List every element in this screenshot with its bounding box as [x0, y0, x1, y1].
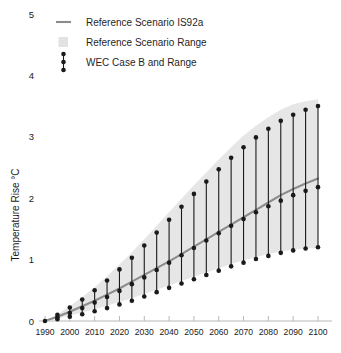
x-tick-2060: 2060 [209, 327, 228, 337]
x-tick-2100: 2100 [308, 327, 327, 337]
legend-label-2: WEC Case B and Range [86, 57, 197, 68]
chart-canvas: 012345 199020002010202020302040205020602… [0, 0, 341, 353]
legend-label-1: Reference Scenario Range [86, 37, 207, 48]
y-axis-title: Temperature Rise °C [10, 169, 21, 262]
x-tick-2080: 2080 [259, 327, 278, 337]
x-tick-2090: 2090 [284, 327, 303, 337]
legend-marker-square [59, 37, 69, 47]
y-tick-2: 2 [29, 193, 34, 204]
x-tick-2020: 2020 [110, 327, 129, 337]
legend-label-0: Reference Scenario IS92a [86, 17, 204, 28]
y-axis-title-text: Temperature Rise °C [10, 169, 21, 262]
y-axis-tick-labels: 012345 [29, 9, 34, 327]
temperature-rise-chart: 012345 199020002010202020302040205020602… [0, 0, 341, 353]
y-tick-4: 4 [29, 70, 34, 81]
legend-marker-dot [61, 68, 66, 73]
chart-axes [39, 316, 332, 321]
y-tick-5: 5 [29, 9, 34, 20]
y-tick-1: 1 [29, 254, 34, 265]
x-tick-2000: 2000 [60, 327, 79, 337]
y-tick-0: 0 [29, 316, 34, 327]
x-tick-2030: 2030 [135, 327, 154, 337]
legend-marker-dot [61, 52, 66, 57]
x-tick-2050: 2050 [184, 327, 203, 337]
legend-marker-dot [61, 60, 66, 65]
chart-legend: Reference Scenario IS92aReference Scenar… [56, 17, 207, 73]
x-tick-1990: 1990 [35, 327, 54, 337]
x-axis-tick-labels: 1990200020102020203020402050206020702080… [35, 327, 327, 337]
x-tick-2040: 2040 [160, 327, 179, 337]
x-tick-2070: 2070 [234, 327, 253, 337]
y-tick-3: 3 [29, 131, 34, 142]
x-tick-2010: 2010 [85, 327, 104, 337]
